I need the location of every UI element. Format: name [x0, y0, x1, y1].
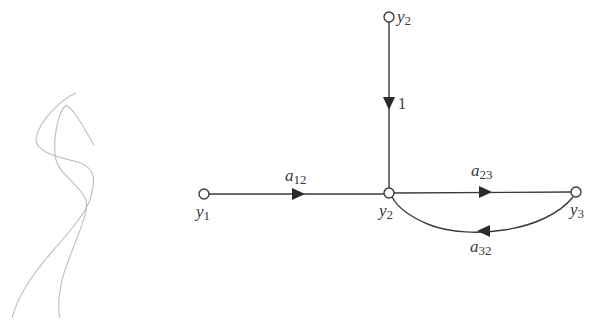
gain-label-1: 1	[398, 95, 406, 112]
signal-flow-graph: 1 a12 a23 a32 y2 y1 y2 y3	[0, 0, 597, 321]
arrow-down-icon	[383, 97, 395, 110]
gain-label-a12: a12	[285, 166, 307, 187]
node-label-y2-mid: y2	[377, 201, 393, 222]
arrow-left-icon	[477, 225, 490, 237]
node-y3	[571, 187, 581, 197]
arrow-right-icon	[292, 188, 305, 200]
branch-y3-to-y2-arc	[392, 197, 573, 232]
node-label-y1: y1	[194, 202, 210, 223]
arrow-right-icon	[479, 186, 492, 198]
gain-label-a32: a32	[470, 237, 492, 258]
node-y2-mid	[384, 188, 394, 198]
pencil-sketch-decoration	[12, 93, 94, 318]
node-label-y2-top: y2	[395, 7, 411, 28]
node-y2-top	[384, 12, 394, 22]
node-y1	[199, 189, 209, 199]
node-label-y3: y3	[568, 200, 584, 221]
gain-label-a23: a23	[471, 161, 493, 182]
